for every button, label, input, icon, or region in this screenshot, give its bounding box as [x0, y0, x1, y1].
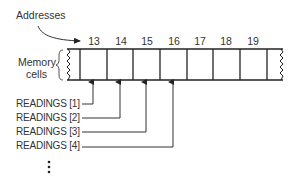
memory-diagram [0, 0, 299, 186]
memory-strip [67, 49, 283, 80]
readings-4-pointer [82, 82, 173, 147]
addresses-arrow [38, 26, 80, 41]
left-break-edge [67, 49, 70, 80]
readings-2-pointer [82, 82, 120, 118]
continuation-dots [48, 161, 51, 174]
right-break-edge [280, 49, 283, 80]
memory-cells-brace [56, 50, 63, 80]
readings-3-pointer [82, 82, 146, 132]
readings-1-pointer [82, 82, 93, 104]
